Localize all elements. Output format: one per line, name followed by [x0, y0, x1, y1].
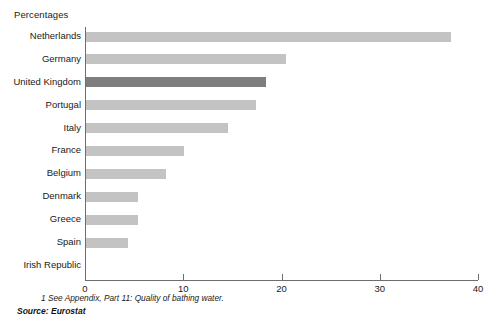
bar-label-denmark: Denmark [42, 190, 81, 201]
bar-label-portugal: Portugal [46, 99, 81, 110]
bar-netherlands [86, 32, 451, 42]
source-note: Source: Eurostat [17, 306, 86, 316]
bar-label-france: France [51, 144, 81, 155]
x-tick [380, 274, 381, 280]
bar-label-netherlands: Netherlands [30, 30, 81, 41]
bar-united-kingdom [86, 77, 266, 87]
bar-label-italy: Italy [64, 122, 81, 133]
bar-label-irish-republic: Irish Republic [23, 259, 81, 270]
bar-row: Italy [0, 120, 493, 143]
bar-row: Irish Republic [0, 257, 493, 280]
bar-label-spain: Spain [57, 236, 81, 247]
bar-portugal [86, 100, 256, 110]
x-tick-label: 20 [276, 283, 287, 294]
bar-greece [86, 215, 138, 225]
bar-label-belgium: Belgium [47, 167, 81, 178]
bar-row: Germany [0, 51, 493, 74]
bar-denmark [86, 192, 138, 202]
bar-row: Greece [0, 211, 493, 234]
bar-italy [86, 123, 228, 133]
footnote: 1 See Appendix, Part 11: Quality of bath… [41, 293, 224, 303]
bar-label-greece: Greece [50, 213, 81, 224]
bar-spain [86, 238, 128, 248]
bar-label-united-kingdom: United Kingdom [13, 76, 81, 87]
bar-row: Spain [0, 234, 493, 257]
x-tick-label: 30 [374, 283, 385, 294]
x-tick-label: 40 [473, 283, 484, 294]
plot-area: NetherlandsGermanyUnited KingdomPortugal… [0, 0, 493, 333]
bar-row: Denmark [0, 188, 493, 211]
bar-germany [86, 54, 286, 64]
bar-label-germany: Germany [42, 53, 81, 64]
x-tick [85, 274, 86, 280]
bar-belgium [86, 169, 166, 179]
x-tick [282, 274, 283, 280]
bar-row: Netherlands [0, 28, 493, 51]
bar-row: Portugal [0, 97, 493, 120]
bar-rows: NetherlandsGermanyUnited KingdomPortugal… [0, 28, 493, 280]
x-axis-line [85, 280, 478, 281]
bar-row: France [0, 142, 493, 165]
bathing-water-bar-chart: Percentages NetherlandsGermanyUnited Kin… [0, 0, 493, 333]
x-tick [183, 274, 184, 280]
x-tick [478, 274, 479, 280]
bar-france [86, 146, 184, 156]
bar-row: Belgium [0, 165, 493, 188]
bar-row: United Kingdom [0, 74, 493, 97]
